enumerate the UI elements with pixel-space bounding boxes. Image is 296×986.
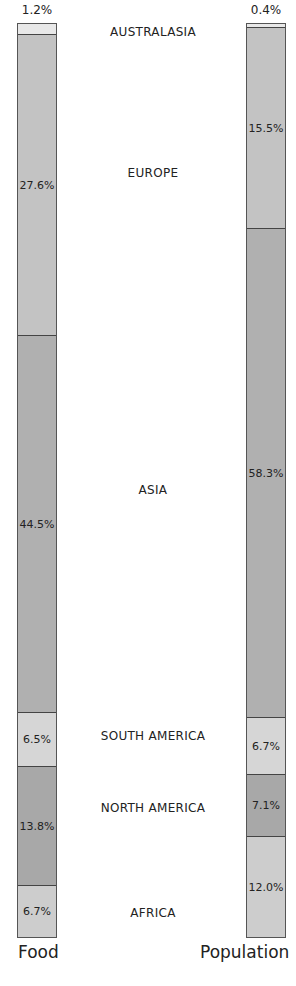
population-asia-segment: 58.3% [247,228,285,717]
population-africa-segment: 12.0% [247,836,285,937]
food-australasia-segment [18,24,56,34]
food-south-america-segment: 6.5% [18,712,56,766]
population-africa-value: 12.0% [249,881,284,894]
region-label-australasia: AUSTRALASIA [60,25,246,39]
region-label-north-america: NORTH AMERICA [60,801,246,815]
population-bar: 15.5% 58.3% 6.7% 7.1% 12.0% [246,23,286,938]
region-label-asia: ASIA [60,483,246,497]
population-australasia-value: 0.4% [236,3,296,17]
food-axis-label: Food [18,942,59,962]
food-north-america-value: 13.8% [20,820,55,833]
food-europe-value: 27.6% [20,179,55,192]
food-australasia-value: 1.2% [7,3,67,17]
food-south-america-value: 6.5% [23,733,51,746]
population-asia-value: 58.3% [249,467,284,480]
population-south-america-segment: 6.7% [247,717,285,774]
food-europe-segment: 27.6% [18,34,56,335]
food-bar: 27.6% 44.5% 6.5% 13.8% 6.7% [17,23,57,938]
population-north-america-value: 7.1% [252,799,280,812]
population-axis-label: Population [200,942,289,962]
food-asia-segment: 44.5% [18,335,56,712]
region-label-europe: EUROPE [60,166,246,180]
population-europe-segment: 15.5% [247,27,285,228]
region-label-africa: AFRICA [60,906,246,920]
population-europe-value: 15.5% [249,122,284,135]
population-south-america-value: 6.7% [252,740,280,753]
food-africa-segment: 6.7% [18,885,56,937]
region-label-south-america: SOUTH AMERICA [60,729,246,743]
food-asia-value: 44.5% [20,518,55,531]
food-north-america-segment: 13.8% [18,766,56,885]
food-africa-value: 6.7% [23,905,51,918]
population-north-america-segment: 7.1% [247,774,285,836]
